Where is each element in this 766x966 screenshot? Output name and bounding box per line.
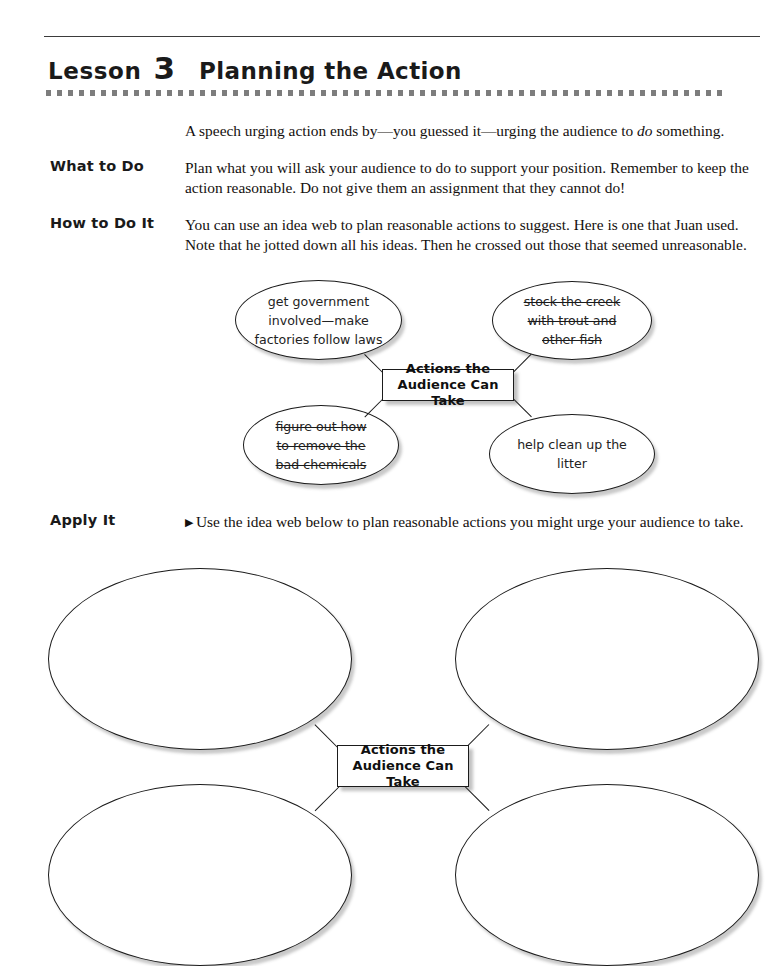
example-oval-line: involved—make <box>268 313 369 328</box>
section-body-what-to-do: Plan what you will ask your audience to … <box>185 158 750 197</box>
lesson-number: 3 <box>153 50 175 86</box>
example-oval-line: with trout and <box>528 313 617 328</box>
triangle-bullet-icon: ▶ <box>185 516 193 528</box>
lesson-header: Lesson 3 Planning the Action <box>48 50 462 86</box>
example-center-box-text: Actions the Audience Can Take <box>383 361 513 409</box>
example-oval-bottom-right-text: help clean up the litter <box>507 435 637 473</box>
example-oval-line: to remove the <box>276 438 365 453</box>
example-oval-line: other fish <box>542 332 602 347</box>
section-body-how-to-do-it: You can use an idea web to plan reasonab… <box>185 215 750 254</box>
blank-oval-top-left[interactable] <box>48 568 352 750</box>
blank-oval-bottom-left[interactable] <box>48 784 352 966</box>
example-oval-top-left: get government involved—make factories f… <box>235 280 402 360</box>
center-box-line-2: Audience Can Take <box>353 758 454 789</box>
section-body-apply-it: ▶Use the idea web below to plan reasonab… <box>185 512 750 533</box>
section-label-how-to-do-it: How to Do It <box>50 215 180 231</box>
intro-text-before: A speech urging action ends by—you guess… <box>185 122 637 139</box>
top-rule <box>44 36 760 37</box>
center-box-line-2: Audience Can Take <box>398 377 499 408</box>
example-center-box: Actions the Audience Can Take <box>382 369 514 401</box>
example-oval-line: factories follow laws <box>255 332 383 347</box>
example-oval-bottom-left-text: figure out how to remove the bad chemica… <box>265 417 376 474</box>
intro-text-after: something. <box>652 122 724 139</box>
example-oval-bottom-left: figure out how to remove the bad chemica… <box>243 405 399 485</box>
center-box-line-1: Actions the <box>361 742 445 757</box>
example-oval-top-left-text: get government involved—make factories f… <box>245 292 393 349</box>
example-oval-line: figure out how <box>275 419 366 434</box>
example-oval-line: help clean up the <box>517 437 627 452</box>
apply-it-text: Use the idea web below to plan reasonabl… <box>196 513 744 530</box>
example-oval-line: get government <box>268 294 369 309</box>
example-connector-top-left <box>364 354 383 373</box>
example-oval-line: bad chemicals <box>276 457 367 472</box>
section-label-apply-it: Apply It <box>50 512 180 528</box>
example-oval-top-right: stock the creek with trout and other fis… <box>492 281 652 360</box>
blank-connector-bottom-left <box>314 786 339 811</box>
example-connector-top-right <box>513 354 532 373</box>
example-oval-top-right-text: stock the creek with trout and other fis… <box>514 292 631 349</box>
blank-connector-top-left <box>314 724 339 749</box>
page-title: Planning the Action <box>199 58 462 84</box>
example-oval-line: litter <box>557 456 587 471</box>
blank-oval-bottom-right[interactable] <box>455 784 759 966</box>
dotted-divider <box>46 90 728 96</box>
lesson-word: Lesson <box>48 58 141 84</box>
example-oval-bottom-right: help clean up the litter <box>489 414 655 494</box>
intro-text: A speech urging action ends by—you guess… <box>185 121 750 141</box>
blank-center-box: Actions the Audience Can Take <box>337 745 469 787</box>
center-box-line-1: Actions the <box>406 361 490 376</box>
intro-italic-word: do <box>637 122 652 139</box>
example-connector-bottom-right <box>513 398 532 417</box>
blank-center-box-text: Actions the Audience Can Take <box>338 742 468 790</box>
blank-oval-top-right[interactable] <box>455 568 759 750</box>
blank-connector-bottom-right <box>465 786 490 811</box>
section-label-what-to-do: What to Do <box>50 158 180 174</box>
example-oval-line: stock the creek <box>524 294 621 309</box>
